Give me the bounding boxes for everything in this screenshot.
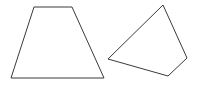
trapezoid-shape: [11, 7, 104, 78]
shapes-figure: [0, 0, 203, 85]
quadrilateral-shape: [108, 5, 187, 76]
image-canvas: [0, 0, 203, 85]
